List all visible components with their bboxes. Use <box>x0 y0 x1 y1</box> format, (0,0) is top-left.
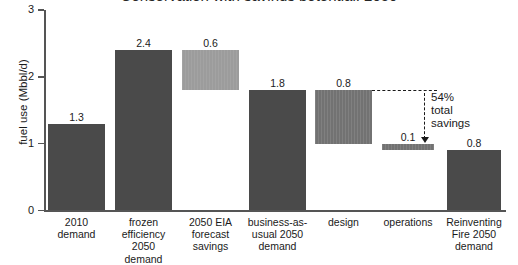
category-label-line: demand <box>237 240 318 252</box>
annotation-dashed-line <box>372 90 437 91</box>
y-axis-label: fuel use (Mbbl/d) <box>17 27 29 177</box>
y-tick-label: 2 <box>12 70 34 82</box>
y-tick-label: 0 <box>12 204 34 216</box>
y-axis-line <box>44 10 46 211</box>
annotation-text: 54%totalsavings <box>431 91 470 130</box>
bar-value-label: 0.6 <box>182 37 239 49</box>
category-label: ReinventingFire 2050demand <box>435 216 513 253</box>
category-label-line: demand <box>435 240 513 252</box>
y-tick-mark <box>38 210 44 212</box>
bar-2050-eia-forecast-savings <box>182 50 239 90</box>
bar-value-label: 0.8 <box>447 137 501 149</box>
y-tick-mark <box>38 143 44 145</box>
y-tick-label: 1 <box>12 137 34 149</box>
category-label-line: Reinventing <box>435 216 513 228</box>
annotation-text-line: savings <box>431 117 470 130</box>
bar-design <box>315 90 372 143</box>
annotation-text-line: 54% <box>431 91 470 104</box>
bar-operations <box>382 144 434 151</box>
category-label-line: usual 2050 <box>237 228 318 240</box>
annotation-arrow-head <box>421 137 429 143</box>
y-tick-label: 3 <box>12 3 34 15</box>
chart-title: Conservation with savings potential, 205… <box>0 0 518 1</box>
annotation-arrow-line <box>424 93 425 139</box>
bar-business-as-usual-2050-demand <box>249 90 306 210</box>
annotation-text-line: total <box>431 104 470 117</box>
category-label-line: Fire 2050 <box>435 228 513 240</box>
bar-frozen-efficiency-2050-demand <box>115 50 172 210</box>
bar-reinventing-fire-2050-demand <box>447 150 501 210</box>
y-tick-mark <box>38 76 44 78</box>
y-tick-mark <box>38 9 44 11</box>
bar-value-label: 1.8 <box>249 77 306 89</box>
bar-value-label: 1.3 <box>48 111 105 123</box>
bar-2010-demand <box>48 124 105 211</box>
category-label-line: demand <box>103 253 184 265</box>
bar-value-label: 0.8 <box>315 77 372 89</box>
bar-value-label: 2.4 <box>115 37 172 49</box>
